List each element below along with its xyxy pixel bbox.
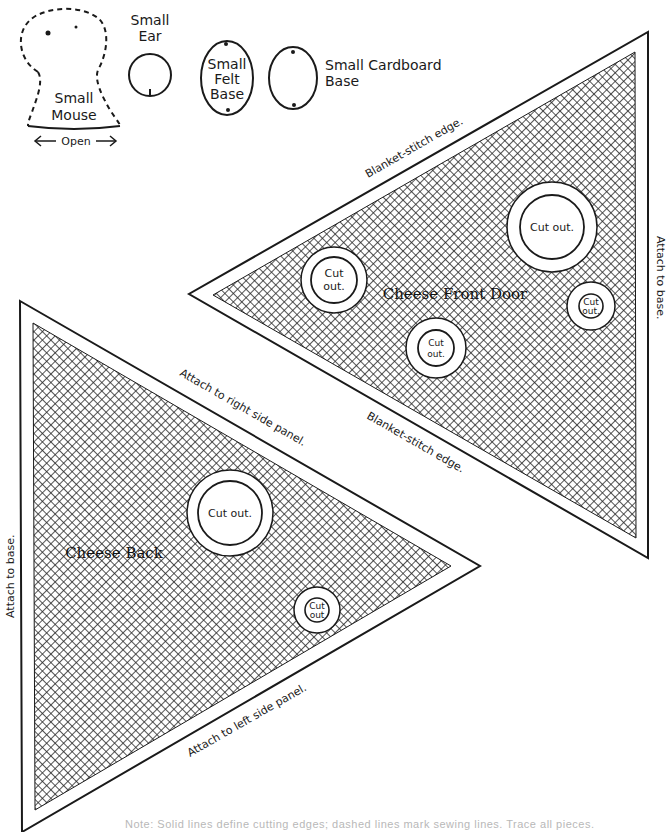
back-cutout-2-label-2: out [310,610,325,620]
front-door-title: Cheese Front Door [383,285,528,303]
open-arrow: Open [35,135,116,148]
front-cutout-3-label-2: out. [427,349,445,359]
small-felt-base-piece: Small Felt Base [201,41,253,115]
cardboard-base-bottom-dot [292,103,296,107]
felt-base-top-dot [224,42,228,46]
cardboard-base-label-2: Base [325,73,359,89]
front-cutout-2-label-1: Cut [325,267,345,280]
back-cutout-1-label: Cut out. [208,507,252,520]
back-cutout-small: Cut out [294,587,340,633]
footer-note: Note: Solid lines define cutting edges; … [125,818,670,832]
front-cutout-1-label: Cut out. [530,221,574,234]
cardboard-base-label-1: Small Cardboard [325,57,442,73]
front-door-cutout-small: Cut out. [567,282,615,330]
felt-base-label-2: Felt [214,71,240,87]
ear-label-1: Small [131,12,170,28]
mouse-label-2: Mouse [51,107,96,123]
mouse-eye-dot [46,31,51,36]
front-door-cutout-large: Cut out. [507,182,597,272]
front-cutout-2-label-2: out. [323,280,345,293]
front-door-cutout-bottom: Cut out. [406,318,466,378]
cardboard-base-top-dot [291,50,295,54]
back-title: Cheese Back [65,544,164,562]
small-cardboard-base-piece: Small Cardboard Base [269,47,442,109]
pattern-page: Small Mouse Open Small Ear Small Felt Ba… [0,0,670,832]
mouse-dashed-outline-left [28,72,40,126]
back-cutout-large: Cut out. [187,470,273,556]
ear-label-2: Ear [138,28,161,44]
mouse-open-edge [28,126,120,129]
mouse-ear-dot [75,26,78,29]
felt-base-label-3: Base [210,86,244,102]
felt-base-label-1: Small [208,56,247,72]
front-cutout-3-label-1: Cut [428,338,444,348]
cardboard-base-oval [269,47,317,109]
mouse-label-1: Small [55,90,94,106]
felt-base-bottom-dot [226,108,230,112]
front-door-right-edge-label: Attach to base. [654,236,667,319]
pattern-canvas: Small Mouse Open Small Ear Small Felt Ba… [0,0,670,832]
back-left-edge-label: Attach to base. [4,535,17,618]
front-door-cutout-left: Cut out. [301,247,367,313]
open-label: Open [61,135,90,148]
small-ear-piece: Small Ear [129,12,171,96]
front-cutout-4-label-2: out. [582,306,600,316]
small-mouse-piece: Small Mouse Open [21,9,120,148]
